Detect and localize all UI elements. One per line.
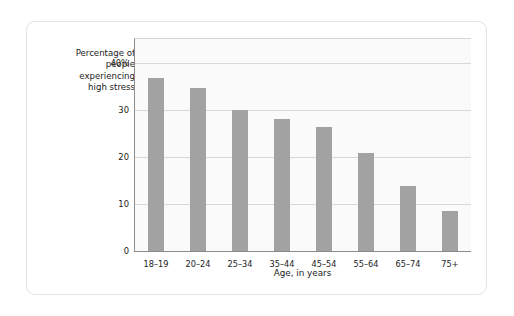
y-tick-label-40: 40% (110, 58, 129, 68)
bar-35–44 (274, 119, 290, 251)
gridline-10: 10 (135, 204, 471, 205)
y-axis-title: Percentage of people experiencing high s… (35, 48, 135, 94)
gridline-30: 30 (135, 110, 471, 111)
bar-65–74 (400, 186, 416, 251)
bar-25–34 (232, 110, 248, 251)
bar-55–64 (358, 153, 374, 251)
gridline-40: 40% (135, 63, 471, 64)
plot-area: 010203040%18–1920–2425–3435–4445–5455–64… (134, 38, 471, 252)
x-axis-title: Age, in years (134, 268, 471, 278)
y-tick-label-0: 0 (124, 246, 129, 256)
y-tick-label-20: 20 (118, 152, 129, 162)
gridline-20: 20 (135, 157, 471, 158)
y-tick-label-10: 10 (118, 199, 129, 209)
bar-45–54 (316, 127, 332, 251)
figure-card: Percentage of people experiencing high s… (26, 21, 487, 295)
y-tick-label-30: 30 (118, 105, 129, 115)
bar-20–24 (190, 88, 206, 251)
bar-75+ (442, 211, 458, 251)
gridline-0: 0 (135, 251, 471, 252)
bar-18–19 (148, 78, 164, 251)
